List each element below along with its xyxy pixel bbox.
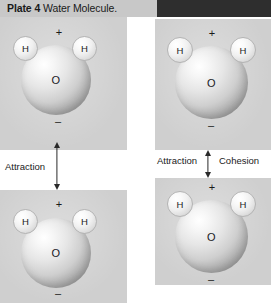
molecule-panel-top-left: + H H O – (0, 17, 127, 150)
negative-charge-label: – (51, 116, 65, 127)
hydrogen-sphere-right: H (72, 36, 97, 61)
hydrogen-sphere-left: H (13, 209, 38, 234)
header-bar: Plate 4 Water Molecule. (0, 0, 271, 17)
negative-charge-label: – (204, 120, 218, 131)
page-title: Plate 4 Water Molecule. (7, 2, 117, 14)
hydrogen-sphere-right: H (230, 191, 256, 217)
positive-charge-label: + (205, 182, 219, 193)
plate-title-label: Water Molecule. (43, 2, 117, 14)
positive-charge-label: + (52, 27, 66, 38)
cohesion-label-right: Cohesion (219, 155, 259, 166)
molecule-panel-bottom-right: + H H O – (155, 178, 271, 285)
water-molecule-top-left: + H H O – (0, 17, 127, 150)
header-dark-panel (157, 0, 271, 17)
arrow-head-down-icon (54, 184, 60, 190)
hydrogen-sphere-right: H (230, 37, 256, 63)
positive-charge-label: + (205, 28, 219, 39)
cohesion-arrow-right (202, 150, 214, 178)
water-molecule-top-right: + H H O – (155, 19, 271, 150)
molecule-panel-top-right: + H H O – (155, 19, 271, 150)
positive-charge-label: + (52, 199, 66, 210)
water-molecule-bottom-left: + H H O – (0, 190, 127, 303)
attraction-label-right: Attraction (157, 155, 197, 166)
attraction-label-left: Attraction (5, 161, 45, 172)
hydrogen-sphere-left: H (167, 191, 193, 217)
attraction-arrow-left (51, 142, 63, 190)
hydrogen-sphere-left: H (167, 37, 193, 63)
water-molecule-bottom-right: + H H O – (155, 178, 271, 285)
hydrogen-sphere-right: H (72, 209, 97, 234)
plate-number-label: Plate 4 (7, 2, 40, 14)
arrow-shaft (56, 145, 57, 187)
arrow-head-down-icon (205, 172, 211, 178)
negative-charge-label: – (204, 274, 218, 285)
molecule-panel-bottom-left: + H H O – (0, 190, 127, 303)
hydrogen-sphere-left: H (13, 36, 38, 61)
negative-charge-label: – (51, 288, 65, 299)
